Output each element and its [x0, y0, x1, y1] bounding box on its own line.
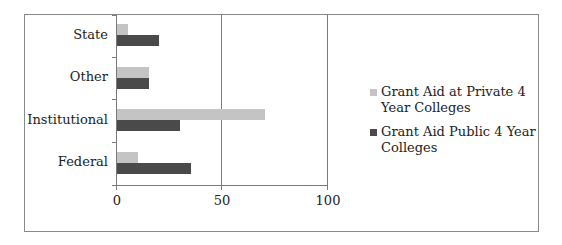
bar-state-private — [117, 24, 128, 35]
legend-swatch-light — [370, 89, 377, 96]
plot-area — [116, 15, 327, 185]
legend-swatch-dark — [370, 129, 377, 136]
legend-label: Grant Aid at Private 4 Year Colleges — [381, 84, 526, 115]
x-tick — [221, 185, 222, 190]
bar-institutional-private — [117, 109, 265, 120]
category-label-federal: Federal — [58, 154, 108, 169]
legend: Grant Aid at Private 4 Year Colleges Gra… — [370, 84, 545, 164]
x-tick — [327, 185, 328, 190]
gridline-50 — [221, 15, 222, 185]
bar-institutional-public — [117, 120, 180, 131]
bar-federal-public — [117, 163, 191, 174]
y-tick — [112, 15, 116, 16]
bar-state-public — [117, 35, 159, 46]
legend-item-private: Grant Aid at Private 4 Year Colleges — [370, 84, 545, 116]
x-tick-label-100: 100 — [316, 193, 341, 208]
x-tick-label-0: 0 — [113, 193, 121, 208]
bar-other-private — [117, 67, 149, 78]
x-tick-label-50: 50 — [214, 193, 231, 208]
legend-item-public: Grant Aid Public 4 Year Colleges — [370, 124, 545, 156]
x-tick — [116, 185, 117, 190]
category-label-other: Other — [70, 69, 108, 84]
category-label-state: State — [73, 27, 108, 42]
legend-label: Grant Aid Public 4 Year Colleges — [381, 124, 536, 155]
bar-other-public — [117, 78, 149, 89]
y-tick — [112, 142, 116, 143]
bar-federal-private — [117, 152, 138, 163]
y-tick — [112, 99, 116, 100]
y-tick — [112, 57, 116, 58]
gridline-100 — [327, 15, 328, 185]
x-axis — [112, 185, 327, 186]
category-label-institutional: Institutional — [27, 112, 108, 127]
